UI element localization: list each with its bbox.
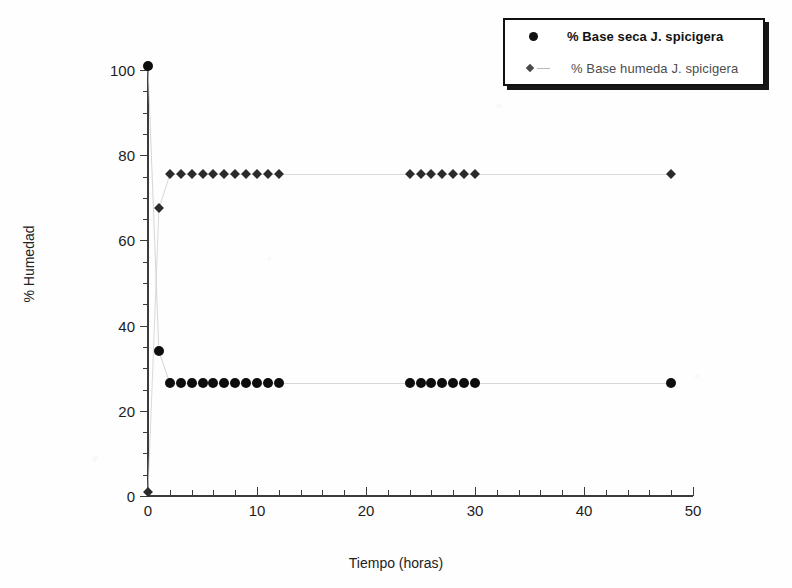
x-tick-minor (235, 490, 236, 496)
x-tick-minor (301, 490, 302, 496)
x-tick-label: 10 (249, 502, 266, 519)
x-tick-minor (649, 490, 650, 496)
data-point (666, 169, 676, 179)
data-point (154, 203, 164, 213)
data-point (448, 378, 458, 388)
y-tick-minor (143, 113, 148, 114)
data-point (263, 169, 273, 179)
data-point (470, 169, 480, 179)
y-tick-minor (143, 198, 148, 199)
y-tick-minor (143, 134, 148, 135)
y-tick-minor (143, 283, 148, 284)
x-tick-minor (192, 490, 193, 496)
y-tick-minor (143, 347, 148, 348)
data-point (426, 378, 436, 388)
legend-entry-base-humeda: % Base humeda J. spicigera (505, 52, 763, 84)
y-tick-label: 20 (118, 402, 135, 419)
data-point (241, 169, 251, 179)
x-tick-minor (431, 490, 432, 496)
x-tick-minor (453, 490, 454, 496)
x-tick-minor (540, 490, 541, 496)
chart-legend: % Base seca J. spicigera % Base humeda J… (503, 18, 765, 86)
data-point (263, 378, 273, 388)
data-point (405, 169, 415, 179)
x-tick-major (584, 487, 585, 496)
y-tick-major (140, 155, 148, 156)
y-tick-minor (143, 390, 148, 391)
x-tick-minor (497, 490, 498, 496)
data-point (416, 169, 426, 179)
data-point (437, 378, 447, 388)
x-tick-minor (213, 490, 214, 496)
legend-entry-base-seca: % Base seca J. spicigera (505, 20, 763, 52)
series-line-segment (279, 174, 410, 175)
series-line-segment (475, 174, 671, 175)
data-point (187, 169, 197, 179)
x-axis-line (147, 495, 693, 497)
x-tick-minor (344, 490, 345, 496)
data-point (416, 378, 426, 388)
x-tick-minor (170, 490, 171, 496)
x-tick-label: 50 (685, 502, 702, 519)
x-tick-major (693, 487, 694, 496)
y-tick-minor (143, 91, 148, 92)
data-point (143, 61, 153, 71)
y-tick-minor (143, 453, 148, 454)
x-tick-label: 0 (144, 502, 152, 519)
x-tick-label: 40 (576, 502, 593, 519)
x-tick-minor (410, 490, 411, 496)
x-tick-minor (671, 490, 672, 496)
y-tick-label: 100 (110, 62, 135, 79)
y-tick-label: 0 (127, 488, 135, 505)
data-point (219, 169, 229, 179)
legend-label-base-seca: % Base seca J. spicigera (567, 29, 723, 44)
y-tick-minor (143, 262, 148, 263)
y-tick-minor (143, 432, 148, 433)
data-point (274, 378, 284, 388)
data-point (176, 378, 186, 388)
legend-marker-diamond-icon (527, 65, 571, 71)
data-point (459, 169, 469, 179)
data-point (208, 169, 218, 179)
data-point (666, 378, 676, 388)
data-point (165, 169, 175, 179)
data-point (241, 378, 251, 388)
data-point (405, 378, 415, 388)
series-line-segment (475, 383, 671, 384)
x-tick-major (257, 487, 258, 496)
data-point (470, 378, 480, 388)
data-point (230, 378, 240, 388)
y-tick-major (140, 240, 148, 241)
chart-figure: % Base seca J. spicigera % Base humeda J… (0, 0, 792, 588)
x-tick-minor (562, 490, 563, 496)
y-axis-title: % Humedad (21, 199, 37, 329)
x-tick-minor (279, 490, 280, 496)
data-point (252, 169, 262, 179)
data-point (198, 378, 208, 388)
data-point (176, 169, 186, 179)
data-point (165, 378, 175, 388)
x-tick-major (366, 487, 367, 496)
y-tick-minor (143, 177, 148, 178)
data-point (187, 378, 197, 388)
x-tick-label: 30 (467, 502, 484, 519)
y-tick-label: 40 (118, 317, 135, 334)
y-tick-minor (143, 219, 148, 220)
data-point (448, 169, 458, 179)
series-line-segment (279, 383, 410, 384)
y-tick-major (140, 326, 148, 327)
data-point (208, 378, 218, 388)
data-point (230, 169, 240, 179)
plot-area: 020406080100 01020304050 (148, 70, 693, 496)
x-tick-minor (519, 490, 520, 496)
data-point (154, 346, 164, 356)
x-tick-major (475, 487, 476, 496)
y-tick-major (140, 411, 148, 412)
y-tick-label: 80 (118, 147, 135, 164)
data-point (274, 169, 284, 179)
y-tick-label: 60 (118, 232, 135, 249)
x-tick-label: 20 (358, 502, 375, 519)
data-point (219, 378, 229, 388)
data-point (252, 378, 262, 388)
data-point (437, 169, 447, 179)
